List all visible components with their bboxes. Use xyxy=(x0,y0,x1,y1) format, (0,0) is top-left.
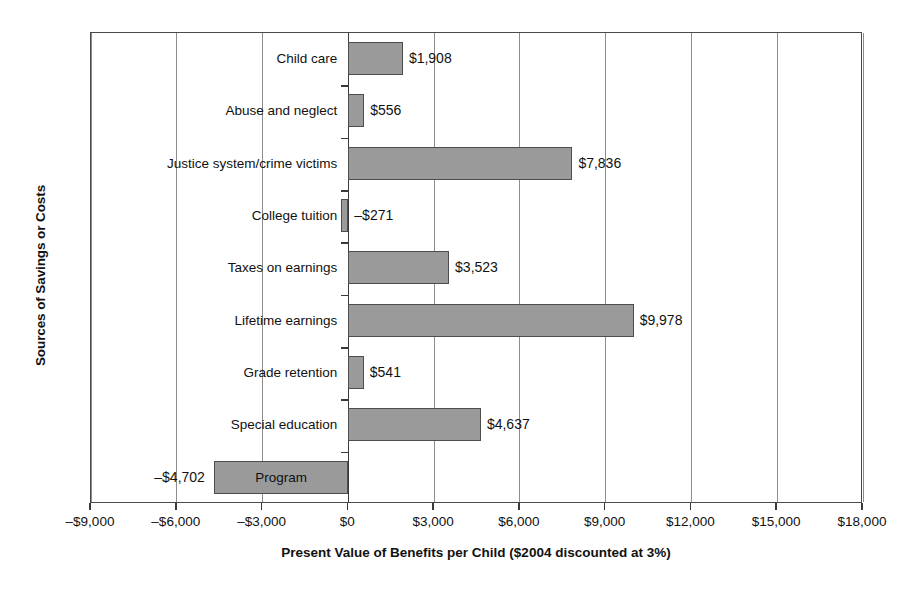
x-axis-tick-label: $15,000 xyxy=(731,514,821,529)
x-axis-tick xyxy=(775,503,777,510)
value-label: $7,836 xyxy=(572,147,621,180)
value-label: $1,908 xyxy=(403,42,452,75)
bar xyxy=(348,304,633,337)
bar xyxy=(348,147,572,180)
y-axis-tick xyxy=(341,190,348,192)
bar xyxy=(348,356,363,389)
x-axis-title: Present Value of Benefits per Child ($20… xyxy=(90,545,862,560)
bar-row: Taxes on earnings$3,523 xyxy=(91,242,861,294)
y-axis-tick xyxy=(341,295,348,297)
bar-row: Special education$4,637 xyxy=(91,399,861,451)
bar xyxy=(348,42,403,75)
category-label: Lifetime earnings xyxy=(0,304,346,337)
x-axis-tick-label: –$3,000 xyxy=(217,514,307,529)
bar xyxy=(348,408,481,441)
bar xyxy=(348,251,449,284)
category-label: Child care xyxy=(0,42,346,75)
x-axis-tick-labels: –$9,000–$6,000–$3,000$0$3,000$6,000$9,00… xyxy=(0,514,924,534)
x-axis-tick xyxy=(432,503,434,510)
category-label: Taxes on earnings xyxy=(0,251,346,284)
plot-area: Child care$1,908Abuse and neglect$556Jus… xyxy=(90,32,862,503)
x-axis-tick xyxy=(175,503,177,510)
value-label: $4,637 xyxy=(481,408,530,441)
category-label: Special education xyxy=(0,408,346,441)
bar-row: Abuse and neglect$556 xyxy=(91,85,861,137)
bar xyxy=(348,94,364,127)
x-axis-tick xyxy=(518,503,520,510)
y-axis-tick xyxy=(341,452,348,454)
y-axis-tick xyxy=(341,138,348,140)
x-axis-tick-label: $3,000 xyxy=(388,514,478,529)
category-label: Justice system/crime victims xyxy=(0,147,346,180)
value-label: $541 xyxy=(364,356,401,389)
bar-row: Child care$1,908 xyxy=(91,33,861,85)
bar-row: Grade retention$541 xyxy=(91,347,861,399)
x-axis-tick xyxy=(89,503,91,510)
x-axis-tick xyxy=(861,503,863,510)
x-axis-tick-label: $6,000 xyxy=(474,514,564,529)
value-label: –$4,702 xyxy=(65,461,212,494)
category-label: Abuse and neglect xyxy=(0,94,346,127)
x-axis-tick xyxy=(261,503,263,510)
bar-chart: Sources of Savings or Costs Child care$1… xyxy=(0,0,924,596)
category-label: Grade retention xyxy=(0,356,346,389)
x-axis-tick-label: $12,000 xyxy=(645,514,735,529)
value-label: $9,978 xyxy=(634,304,683,337)
y-axis-tick xyxy=(341,85,348,87)
y-axis-tick xyxy=(341,242,348,244)
value-label: $3,523 xyxy=(449,251,498,284)
x-axis-tick-label: –$9,000 xyxy=(45,514,135,529)
y-axis-tick xyxy=(341,399,348,401)
x-axis-tick-label: $0 xyxy=(302,514,392,529)
x-axis-ticks xyxy=(90,503,862,511)
category-label: College tuition xyxy=(0,199,346,232)
x-axis-tick-label: –$6,000 xyxy=(131,514,221,529)
value-label: $556 xyxy=(364,94,401,127)
gridline xyxy=(863,33,864,502)
bar-row: Justice system/crime victims$7,836 xyxy=(91,138,861,190)
category-label: Program xyxy=(214,461,348,494)
y-axis-tick xyxy=(341,347,348,349)
bar-row: Lifetime earnings$9,978 xyxy=(91,295,861,347)
x-axis-tick xyxy=(604,503,606,510)
bar-row: College tuition–$271 xyxy=(91,190,861,242)
value-label: –$271 xyxy=(348,199,393,232)
bar-row: Program–$4,702 xyxy=(91,452,861,504)
x-axis-tick xyxy=(347,503,349,510)
x-axis-tick-label: $18,000 xyxy=(817,514,907,529)
x-axis-tick-label: $9,000 xyxy=(560,514,650,529)
x-axis-tick xyxy=(690,503,692,510)
